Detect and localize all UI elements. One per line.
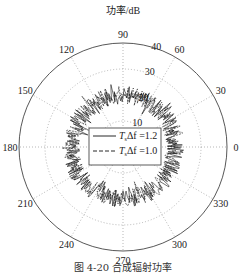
polar-chart: 功率/dB03060901201501802102402703003301020… bbox=[0, 0, 246, 274]
figure-caption: 图 4-20 合成辐射功率 bbox=[0, 259, 246, 274]
radial-tick-label: 10 bbox=[132, 117, 142, 128]
angle-tick-label: 210 bbox=[18, 198, 33, 209]
angle-tick-label: 30 bbox=[216, 85, 226, 96]
angle-tick-label: 300 bbox=[172, 239, 187, 250]
angle-tick-label: 90 bbox=[118, 29, 128, 40]
radial-tick-label: 40 bbox=[151, 41, 161, 52]
angle-tick-label: 180 bbox=[3, 142, 18, 153]
radial-tick-label: 30 bbox=[145, 66, 155, 77]
angle-tick-label: 240 bbox=[59, 239, 74, 250]
angle-tick-label: 0 bbox=[234, 142, 239, 153]
angle-tick-label: 120 bbox=[59, 44, 74, 55]
chart-title: 功率/dB bbox=[106, 4, 141, 16]
angle-tick-label: 330 bbox=[213, 198, 228, 209]
angle-tick-label: 60 bbox=[175, 44, 185, 55]
angle-tick-label: 150 bbox=[18, 85, 33, 96]
